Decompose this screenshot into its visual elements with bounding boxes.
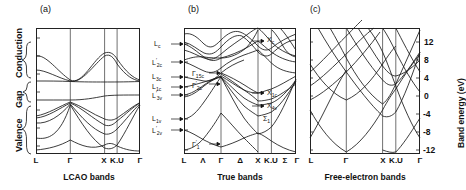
panel-b-bands bbox=[184, 28, 296, 154]
yaxis-tick-5: -8 bbox=[423, 127, 431, 137]
panel-b-label-G1: Γ′1 bbox=[192, 140, 200, 148]
panel-b-xtick-0: L bbox=[177, 156, 191, 165]
panel-b-label-L3c: L3c bbox=[152, 73, 161, 80]
panel-a: (a) bbox=[0, 0, 150, 190]
yaxis-title: Band energy (eV) bbox=[456, 78, 466, 148]
panel-b-label-L1v: L1v bbox=[152, 115, 161, 122]
panel-b-label-L3v: L′3v bbox=[152, 91, 162, 99]
panel-b-xtick-3: Δ bbox=[233, 156, 247, 165]
yaxis-tick-0: 12 bbox=[424, 37, 433, 47]
panel-a-xtick-4: Γ bbox=[133, 156, 147, 165]
panel-b-gamma-arrows bbox=[208, 28, 224, 154]
yaxis-tick-4: -4 bbox=[423, 109, 431, 119]
panel-b-label-Lc: Lc bbox=[154, 40, 160, 47]
panel-b-label-L2v: L′2v bbox=[152, 126, 162, 134]
panel-c-xtick-3: K.U bbox=[385, 156, 407, 165]
panel-b-xtick-2: Γ bbox=[214, 156, 228, 165]
panel-c-xtick-4: Γ bbox=[413, 156, 427, 165]
panel-a-bands bbox=[36, 28, 140, 154]
panel-b-xtick-7: Γ bbox=[290, 156, 304, 165]
panel-b: (b) bbox=[150, 0, 310, 190]
panel-c-xtick-1: Γ bbox=[339, 156, 353, 165]
panel-a-caption: LCAO bands bbox=[46, 172, 132, 182]
panel-c-caption: Free-electron bands bbox=[311, 172, 419, 182]
panel-b-label-X4v: X4v bbox=[267, 102, 277, 109]
panel-c-bands bbox=[310, 28, 420, 154]
panel-b-label-Xc: Xc bbox=[267, 36, 274, 43]
panel-b-x-arrows bbox=[250, 28, 268, 154]
panel-b-l-arrows bbox=[170, 28, 186, 154]
panel-c-xtick-0: L bbox=[304, 156, 318, 165]
panel-b-label-G15c: Γ15c bbox=[192, 70, 204, 77]
panel-b-label-L2c: L′2c bbox=[152, 58, 162, 66]
panel-b-caption: True bands bbox=[197, 172, 283, 182]
panel-a-tag: (a) bbox=[40, 4, 51, 14]
yaxis-tick-3: 0 bbox=[424, 91, 429, 101]
panel-b-xtick-1: Λ bbox=[196, 156, 210, 165]
panel-a-xtick-1: Γ bbox=[63, 156, 77, 165]
panel-a-xtick-3: K.U bbox=[106, 156, 128, 165]
panel-c: (c) bbox=[310, 0, 462, 190]
yaxis-tick-6: -12 bbox=[423, 145, 435, 155]
panel-c-tag: (c) bbox=[310, 4, 321, 14]
panel-b-label-L1c: L1c bbox=[152, 83, 161, 90]
yaxis-tick-2: 4 bbox=[424, 73, 429, 83]
panel-b-label-G2c: Γ′2c bbox=[192, 81, 202, 89]
yaxis-tick-1: 8 bbox=[424, 55, 429, 65]
panel-b-label-X1c: X1c bbox=[267, 89, 277, 96]
panel-a-xtick-0: L bbox=[29, 156, 43, 165]
panel-b-tag: (b) bbox=[188, 4, 199, 14]
